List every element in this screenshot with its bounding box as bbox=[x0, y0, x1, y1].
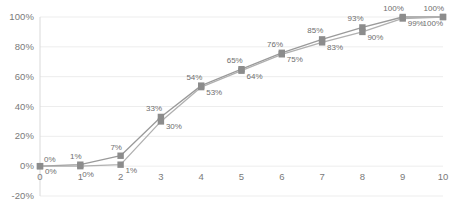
data-point-marker bbox=[117, 161, 123, 167]
data-point-label: 0% bbox=[45, 167, 57, 176]
data-point-marker bbox=[198, 84, 204, 90]
data-point-marker bbox=[117, 153, 123, 159]
x-axis-tick-label: 5 bbox=[228, 171, 256, 182]
data-point-label: 1% bbox=[126, 166, 138, 175]
data-point-label: 83% bbox=[327, 43, 343, 52]
data-point-label: 0% bbox=[82, 170, 94, 179]
data-point-label: 30% bbox=[166, 122, 182, 131]
x-axis-tick-label: 9 bbox=[389, 171, 417, 182]
data-point-marker bbox=[37, 163, 43, 169]
gridlines bbox=[40, 17, 443, 196]
y-axis-tick-label: 0% bbox=[20, 160, 34, 171]
data-point-label: 1% bbox=[70, 152, 82, 161]
y-axis-tick-label: 60% bbox=[15, 71, 34, 82]
data-point-marker bbox=[279, 51, 285, 57]
data-point-label: 100% bbox=[423, 19, 443, 28]
data-point-marker bbox=[238, 68, 244, 74]
data-point-marker bbox=[77, 163, 83, 169]
data-point-marker bbox=[158, 118, 164, 124]
y-axis-tick-label: 100% bbox=[9, 11, 34, 22]
data-point-label: 90% bbox=[367, 33, 383, 42]
x-axis-tick-label: 6 bbox=[268, 171, 296, 182]
y-axis-tick-label: -20% bbox=[11, 190, 34, 201]
data-point-label: 53% bbox=[206, 88, 222, 97]
data-point-label: 76% bbox=[267, 40, 283, 49]
data-point-label: 85% bbox=[307, 26, 323, 35]
data-point-label: 100% bbox=[383, 4, 403, 13]
x-axis-tick-label: 7 bbox=[308, 171, 336, 182]
data-point-marker bbox=[359, 29, 365, 35]
data-point-label: 99% bbox=[408, 19, 424, 28]
data-point-label: 64% bbox=[247, 72, 263, 81]
data-point-label: 75% bbox=[287, 55, 303, 64]
data-point-label: 100% bbox=[424, 4, 444, 13]
y-axis-tick-label: 80% bbox=[15, 41, 34, 52]
series-2-path bbox=[37, 14, 446, 170]
data-point-label: 0% bbox=[44, 155, 56, 164]
x-axis-tick-label: 4 bbox=[187, 171, 215, 182]
data-point-marker bbox=[319, 39, 325, 45]
x-axis-tick-label: 3 bbox=[147, 171, 175, 182]
data-point-label: 93% bbox=[348, 14, 364, 23]
y-axis-tick-label: 40% bbox=[15, 101, 34, 112]
x-axis-tick-label: 10 bbox=[429, 171, 449, 182]
data-point-marker bbox=[400, 15, 406, 21]
data-point-label: 65% bbox=[227, 56, 243, 65]
x-axis-tick-label: 8 bbox=[348, 171, 376, 182]
data-point-label: 33% bbox=[146, 104, 162, 113]
y-axis-tick-label: 20% bbox=[15, 130, 34, 141]
series-1-path bbox=[37, 14, 446, 170]
data-point-label: 7% bbox=[110, 143, 122, 152]
data-point-label: 54% bbox=[186, 73, 202, 82]
line-chart: 100%80%60%40%20%0%-20%0123456789100%1%7%… bbox=[0, 0, 449, 217]
